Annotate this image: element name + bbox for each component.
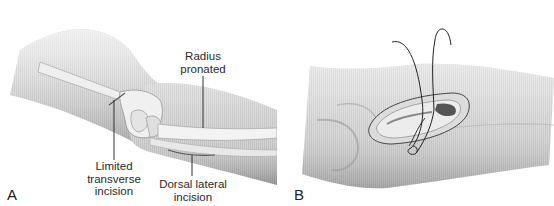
label-radius-line1: Radius (180, 50, 226, 63)
label-dorsal-lateral-incision: Dorsal lateral incision (158, 178, 228, 203)
label-dorsal-line1: Dorsal lateral (158, 178, 228, 191)
panel-letter-a: A (7, 186, 17, 203)
label-radius-line2: pronated (180, 63, 226, 76)
panel-letter-b: B (294, 186, 304, 203)
label-dorsal-line2: incision (158, 191, 228, 204)
label-limited-line1: Limited (86, 160, 142, 173)
label-limited-transverse-incision: Limited transverse incision (86, 160, 142, 198)
panel-b: B (277, 0, 554, 206)
elbow-illustration-b (277, 0, 554, 206)
panel-a: Radius pronated Limited transverse incis… (0, 0, 277, 206)
label-limited-line3: incision (86, 185, 142, 198)
label-limited-line2: transverse (86, 173, 142, 186)
label-radius-pronated: Radius pronated (180, 50, 226, 75)
